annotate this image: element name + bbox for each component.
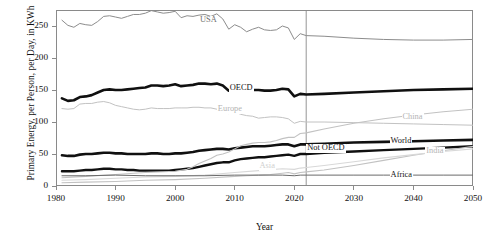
x-tick-label-1990: 1990 [95,193,137,203]
x-tick-mark [473,186,474,190]
energy-per-person-chart: Primary Energy, per Person, per Day, in … [0,0,498,242]
x-tick-label-2000: 2000 [154,193,196,203]
x-tick-label-2030: 2030 [333,193,375,203]
series-label-china: China [402,113,424,121]
series-label-india: India [425,147,444,155]
series-label-world: World [390,137,413,145]
plot-lines [56,10,473,186]
x-tick-mark [234,186,235,190]
y-tick-mark [52,122,56,123]
series-line-usa [62,11,473,40]
y-tick-label-50: 50 [22,148,48,158]
y-tick-label-200: 200 [22,52,48,62]
y-tick-label-0: 0 [22,180,48,190]
x-tick-label-1980: 1980 [35,193,77,203]
x-tick-mark [353,186,354,190]
y-tick-label-250: 250 [22,20,48,30]
series-label-oecd: OECD [229,84,254,92]
series-line-oecd [62,84,473,101]
x-tick-mark [294,186,295,190]
x-tick-mark [413,186,414,190]
y-tick-label-100: 100 [22,116,48,126]
x-tick-label-2010: 2010 [214,193,256,203]
x-tick-mark [115,186,116,190]
y-tick-mark [52,154,56,155]
x-axis-title: Year [56,222,473,232]
series-label-asia: Asia [259,162,276,170]
series-label-usa: USA [199,16,218,24]
x-tick-mark [56,186,57,190]
x-tick-label-2040: 2040 [392,193,434,203]
y-tick-mark [52,58,56,59]
series-label-europe: Europe [217,105,243,113]
series-label-not-oecd: Not OECD [306,144,345,152]
y-tick-mark [52,90,56,91]
series-label-africa: Africa [390,171,413,179]
x-tick-label-2050: 2050 [452,193,494,203]
y-tick-mark [52,186,56,187]
y-tick-label-150: 150 [22,84,48,94]
y-tick-mark [52,26,56,27]
x-tick-label-2020: 2020 [273,193,315,203]
x-tick-mark [175,186,176,190]
